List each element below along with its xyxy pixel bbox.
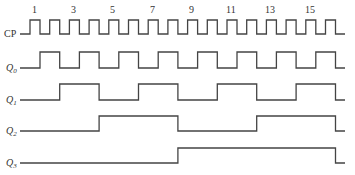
pulse-number: 15 bbox=[305, 4, 315, 15]
waveforms bbox=[20, 20, 345, 163]
waveform-cp bbox=[20, 20, 345, 34]
pulse-number: 1 bbox=[32, 4, 37, 15]
pulse-numbers: 1 3 5 7 9 11 13 15 bbox=[32, 4, 315, 15]
pulse-number: 7 bbox=[150, 4, 155, 15]
pulse-number: 3 bbox=[71, 4, 76, 15]
signal-label-q0: Q0 bbox=[6, 62, 17, 75]
pulse-number: 13 bbox=[265, 4, 275, 15]
pulse-number: 5 bbox=[110, 4, 115, 15]
waveform-q1 bbox=[20, 84, 345, 100]
pulse-number: 11 bbox=[226, 4, 236, 15]
timing-diagram: 1 3 5 7 9 11 13 15 CP Q0 Q1 Q2 Q3 bbox=[0, 0, 355, 175]
pulse-number: 9 bbox=[189, 4, 194, 15]
signal-label-q3: Q3 bbox=[6, 157, 17, 170]
waveform-q0 bbox=[20, 52, 345, 68]
signal-label-cp: CP bbox=[4, 28, 17, 39]
waveform-q3 bbox=[20, 148, 345, 163]
signal-label-q1: Q1 bbox=[6, 94, 17, 107]
signal-label-q2: Q2 bbox=[6, 125, 17, 138]
waveform-q2 bbox=[20, 116, 345, 131]
signal-labels: CP Q0 Q1 Q2 Q3 bbox=[4, 28, 17, 170]
